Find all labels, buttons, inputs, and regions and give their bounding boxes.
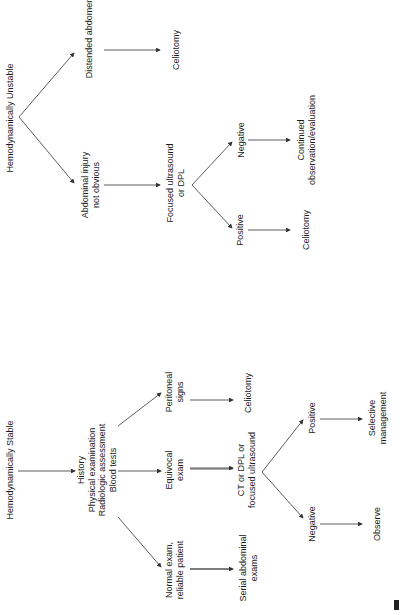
node-history-assessment: History Physical examination Radiologic … [76, 424, 118, 517]
figure-caption-fragment [394, 600, 399, 610]
node-hemodynamically-unstable: Hemodynamically Unstable [5, 63, 16, 172]
node-celiotomy-stable: Celiotomy [243, 373, 254, 413]
node-positive-unstable: Positive [235, 214, 246, 246]
flowchart-canvas: Hemodynamically Unstable Distended abdom… [0, 0, 400, 615]
node-normal-exam: Normal exam, reliable patient [164, 541, 185, 600]
node-focused-ultrasound-or-dpl: Focused ultrasound or DPL [165, 143, 186, 222]
node-negative-unstable: Negative [236, 122, 247, 158]
node-positive-stable: Positive [307, 402, 318, 434]
node-ct-dpl-ultrasound: CT or DPL or focused ultrasound [236, 432, 257, 508]
node-hemodynamically-stable: Hemodynamically Stable [5, 420, 16, 519]
node-negative-stable: Negative [307, 506, 318, 542]
node-selective-management: Selective management [367, 392, 388, 445]
node-distended-abdomen: Distended abdomen [84, 0, 95, 78]
node-celiotomy-positive-unstable: Celiotomy [301, 210, 312, 250]
node-peritoneal-signs: Peritoneal signs [164, 372, 185, 413]
node-continued-observation: Continued observation/evaluation [296, 95, 317, 185]
arrow-to-not-obvious [19, 117, 74, 183]
arrow-to-distended [19, 53, 74, 117]
node-serial-abdominal-exams: Serial abdominal exams [238, 534, 259, 601]
node-observe: Observe [372, 507, 383, 541]
node-equivocal-exam: Equivocal exam [164, 450, 185, 489]
node-celiotomy-unstable: Celiotomy [171, 30, 182, 70]
connector-lines [0, 0, 400, 615]
node-abdominal-injury-not-obvious: Abdominal injury not obvious [80, 152, 101, 219]
